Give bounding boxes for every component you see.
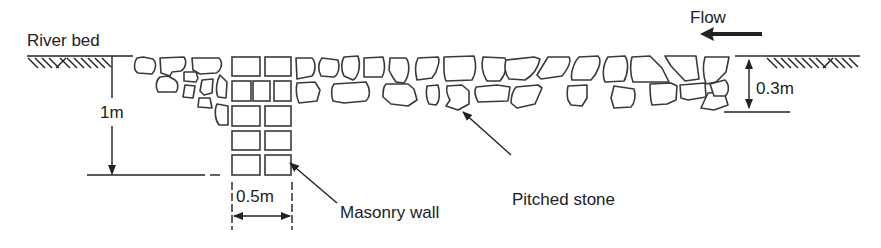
right-ground-hatch [766, 56, 860, 68]
flow-label: Flow [690, 9, 726, 26]
apron-stones-left [135, 57, 229, 125]
flow-arrow [700, 27, 762, 41]
wall-width-label: 0.5m [236, 188, 274, 205]
pitching-depth-label: 0.3m [756, 80, 794, 97]
masonry-wall-label: Masonry wall [340, 204, 439, 221]
masonry-wall-leader [290, 163, 337, 203]
masonry-wall [232, 57, 291, 175]
pitched-stones-top [296, 56, 729, 84]
left-ground-hatch [27, 56, 133, 68]
wall-depth-label: 1m [98, 104, 126, 121]
pitched-stone-label: Pitched stone [512, 191, 615, 208]
river-bed-label: River bed [27, 32, 100, 49]
pitched-stones-bottom [296, 80, 728, 110]
pitched-stone-leader [463, 112, 511, 155]
river-bed-protection-diagram [0, 0, 881, 248]
